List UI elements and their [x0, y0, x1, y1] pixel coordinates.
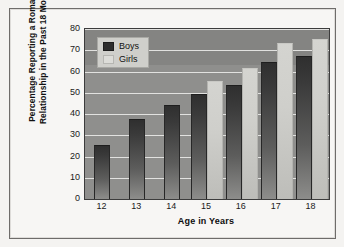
plot-wrapper: 80706050403020100 Boys Girls 121314151 [62, 28, 328, 222]
bar-boys-15 [191, 94, 207, 199]
bar-girls-18 [312, 39, 328, 199]
bar-girls-15 [207, 81, 223, 199]
bar-group-15 [190, 29, 225, 199]
y-axis-tick-80: 80 [70, 23, 80, 33]
y-axis-tick-60: 60 [70, 66, 80, 76]
bar-group-16 [224, 29, 259, 199]
bar-boys-14 [164, 105, 180, 200]
bar-boys-17 [261, 62, 277, 199]
y-axis-title: Percentage Reporting a Romantic Relation… [22, 0, 54, 137]
y-axis-tick-0: 0 [75, 193, 80, 203]
bar-boys-16 [226, 85, 242, 199]
y-axis-tick-50: 50 [70, 87, 80, 97]
x-axis-title: Age in Years [84, 216, 328, 226]
x-axis-tick-16: 16 [223, 201, 258, 215]
x-axis-tick-18: 18 [293, 201, 328, 215]
y-axis-tick-40: 40 [70, 108, 80, 118]
y-axis-title-line1: Percentage Reporting a Romantic [27, 0, 38, 122]
y-axis-tick-20: 20 [70, 151, 80, 161]
plot-area: Boys Girls [84, 28, 330, 200]
y-axis-tick-30: 30 [70, 129, 80, 139]
legend-swatch-boys [103, 42, 114, 51]
x-axis-tick-15: 15 [189, 201, 224, 215]
legend-swatch-girls [103, 55, 114, 64]
bar-boys-18 [296, 56, 312, 199]
chart-frame: Percentage Reporting a Romantic Relation… [9, 8, 336, 239]
legend-item-girls: Girls [103, 54, 139, 64]
y-axis-tick-10: 10 [70, 172, 80, 182]
chart-page: Percentage Reporting a Romantic Relation… [0, 0, 344, 247]
x-axis-tick-17: 17 [258, 201, 293, 215]
bar-group-18 [294, 29, 329, 199]
bar-girls-17 [277, 43, 293, 199]
x-axis-tick-13: 13 [119, 201, 154, 215]
legend-label-girls: Girls [119, 54, 138, 64]
legend: Boys Girls [97, 37, 149, 68]
y-axis-ticks: 80706050403020100 [62, 28, 82, 198]
y-axis-title-line2: Relationship in the Past 18 Months [38, 0, 49, 124]
bar-group-17 [259, 29, 294, 199]
x-axis-tick-12: 12 [84, 201, 119, 215]
bar-boys-12 [94, 145, 110, 199]
x-axis-ticks: 12131415161718 [84, 201, 328, 215]
bar-group-14 [155, 29, 190, 199]
legend-item-boys: Boys [103, 41, 139, 51]
x-axis-tick-14: 14 [154, 201, 189, 215]
bar-girls-16 [242, 68, 258, 199]
bar-boys-13 [129, 119, 145, 199]
y-axis-tick-70: 70 [70, 44, 80, 54]
legend-label-boys: Boys [119, 41, 139, 51]
